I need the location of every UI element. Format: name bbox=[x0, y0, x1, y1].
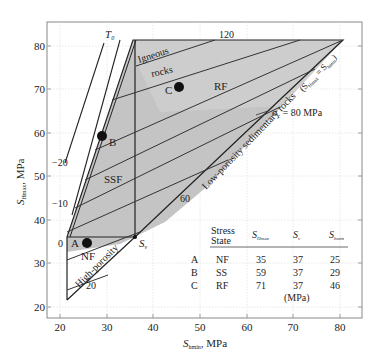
point-b-label: B bbox=[109, 136, 116, 148]
rf-label: RF bbox=[214, 80, 227, 92]
x-tick-labels: 20 30 40 50 60 70 80 bbox=[55, 321, 347, 333]
y-tick-labels: 20 30 40 50 60 70 80 bbox=[34, 40, 46, 313]
label-120: 120 bbox=[219, 29, 234, 40]
svg-text:80: 80 bbox=[34, 40, 46, 52]
svg-text:25: 25 bbox=[330, 254, 340, 265]
stress-polygon-diagram: 20 30 40 50 60 70 80 20 30 40 50 60 70 8… bbox=[0, 0, 382, 360]
svg-text:46: 46 bbox=[330, 280, 340, 291]
point-a-label: A bbox=[71, 237, 79, 249]
svg-text:29: 29 bbox=[330, 267, 340, 278]
svg-text:30: 30 bbox=[102, 321, 114, 333]
point-b bbox=[97, 131, 107, 141]
ssf-label: SSF bbox=[104, 173, 122, 185]
svg-text:37: 37 bbox=[293, 280, 303, 291]
svg-text:37: 37 bbox=[293, 254, 303, 265]
svg-text:35: 35 bbox=[256, 254, 266, 265]
table-header-state: State bbox=[211, 235, 232, 246]
svg-text:50: 50 bbox=[195, 321, 207, 333]
svg-text:40: 40 bbox=[34, 214, 46, 226]
svg-text:40: 40 bbox=[148, 321, 160, 333]
svg-text:60: 60 bbox=[242, 321, 254, 333]
point-c-label: C bbox=[165, 84, 172, 96]
svg-text:71: 71 bbox=[256, 280, 266, 291]
x-axis-title: Shmin, MPa bbox=[183, 337, 227, 350]
svg-text:20: 20 bbox=[55, 321, 67, 333]
label-zero: 0 bbox=[58, 238, 63, 249]
svg-text:C: C bbox=[191, 280, 198, 291]
svg-text:37: 37 bbox=[293, 267, 303, 278]
svg-text:A: A bbox=[191, 254, 199, 265]
svg-text:60: 60 bbox=[34, 127, 46, 139]
sv-point bbox=[133, 235, 137, 239]
svg-text:B: B bbox=[191, 267, 198, 278]
svg-text:RF: RF bbox=[216, 280, 229, 291]
label-neg10: −10 bbox=[52, 198, 68, 209]
svg-text:80: 80 bbox=[335, 321, 347, 333]
svg-text:20: 20 bbox=[34, 301, 46, 313]
sigma-c-label: σc = 80 MPa bbox=[272, 107, 323, 119]
svg-text:SS: SS bbox=[216, 267, 227, 278]
point-c bbox=[174, 82, 184, 92]
svg-text:50: 50 bbox=[34, 170, 46, 182]
table-units: (MPa) bbox=[284, 292, 310, 304]
svg-text:59: 59 bbox=[256, 267, 266, 278]
y-axis-title: SHmax, MPa bbox=[14, 158, 27, 205]
nf-label: NF bbox=[81, 250, 95, 262]
point-a bbox=[82, 238, 92, 248]
svg-text:NF: NF bbox=[216, 254, 229, 265]
svg-text:30: 30 bbox=[34, 257, 46, 269]
svg-text:70: 70 bbox=[288, 321, 300, 333]
svg-text:70: 70 bbox=[34, 83, 46, 95]
label-60: 60 bbox=[180, 193, 190, 204]
label-neg20: −20 bbox=[52, 157, 68, 168]
